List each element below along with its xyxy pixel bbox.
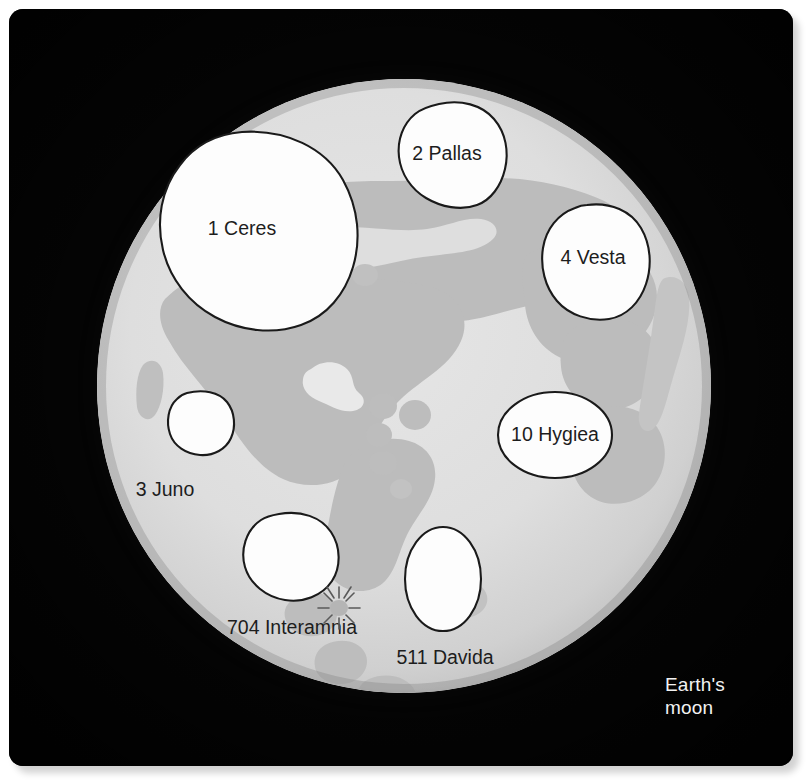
earths-moon-caption: Earth's moon: [665, 673, 755, 720]
crater-spot: [369, 451, 397, 475]
caption-line-2: moon: [665, 696, 755, 720]
moon-disc: [97, 79, 711, 693]
image-panel: 1 Ceres 2 Pallas 4 Vesta: [9, 9, 793, 766]
moon-surface-svg: [97, 79, 711, 693]
crater-spot: [390, 479, 412, 499]
crater-spot: [369, 393, 397, 419]
moon-illustration: 1 Ceres 2 Pallas 4 Vesta: [9, 9, 793, 766]
crater-spot: [399, 400, 431, 430]
moon-surface-group: [97, 79, 711, 693]
crater-spot: [352, 264, 378, 286]
crater-spot: [366, 423, 392, 447]
caption-line-1: Earth's: [665, 673, 755, 697]
asteroid-size-comparison-figure: 1 Ceres 2 Pallas 4 Vesta: [0, 0, 812, 783]
